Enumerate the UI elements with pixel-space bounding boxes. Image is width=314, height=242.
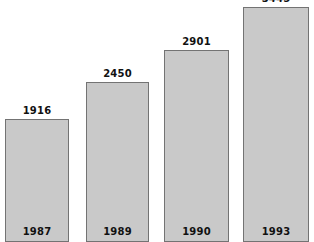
bar-rect-2[interactable]: 1990 bbox=[164, 50, 229, 242]
bar-value-label-0: 1916 bbox=[5, 105, 69, 116]
bar-category-label-3: 1993 bbox=[244, 226, 308, 237]
bar-value-label-1: 2450 bbox=[86, 68, 149, 79]
bar-group-1: 2450 1989 bbox=[86, 2, 149, 242]
bar-rect-3[interactable]: 1993 bbox=[243, 7, 309, 242]
bar-value-label-2: 2901 bbox=[164, 36, 229, 47]
bar-category-label-0: 1987 bbox=[6, 226, 68, 237]
bar-chart: 1916 1987 2450 1989 2901 1990 3445 1993 bbox=[0, 0, 314, 242]
bar-value-label-3: 3445 bbox=[243, 0, 309, 4]
bar-group-2: 2901 1990 bbox=[164, 2, 229, 242]
bar-rect-0[interactable]: 1987 bbox=[5, 119, 69, 242]
bar-rect-1[interactable]: 1989 bbox=[86, 82, 149, 242]
bar-group-0: 1916 1987 bbox=[5, 2, 69, 242]
bar-category-label-1: 1989 bbox=[87, 226, 148, 237]
bar-group-3: 3445 1993 bbox=[243, 2, 309, 242]
bar-category-label-2: 1990 bbox=[165, 226, 228, 237]
